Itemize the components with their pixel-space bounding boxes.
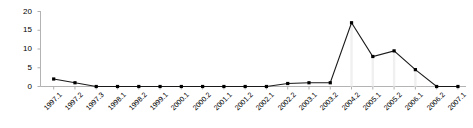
data-point-marker	[435, 85, 438, 88]
y-tick-label: 10	[12, 45, 32, 53]
data-point-marker	[201, 85, 204, 88]
line-chart: 05101520 1997.11997.21997.31998.11998.21…	[0, 0, 473, 128]
data-point-marker	[456, 85, 459, 88]
data-point-marker	[371, 55, 374, 58]
y-tick-label: 0	[12, 83, 32, 91]
y-tick-label: 15	[12, 26, 32, 34]
data-point-marker	[350, 21, 353, 24]
data-point-marker	[116, 85, 119, 88]
data-point-marker	[329, 81, 332, 84]
data-point-marker	[244, 85, 247, 88]
data-point-marker	[158, 85, 161, 88]
data-point-marker	[286, 82, 289, 85]
drop-lines	[352, 23, 416, 87]
axis-group	[41, 11, 467, 87]
data-point-marker	[95, 85, 98, 88]
data-point-marker	[414, 68, 417, 71]
data-point-marker	[137, 85, 140, 88]
data-series-line	[54, 23, 458, 87]
y-tick-label: 20	[12, 8, 32, 16]
data-point-marker	[392, 49, 395, 52]
data-point-marker	[180, 85, 183, 88]
data-point-marker	[307, 81, 310, 84]
data-point-marker	[265, 85, 268, 88]
data-point-marker	[222, 85, 225, 88]
y-tick-label: 5	[12, 64, 32, 72]
data-point-marker	[73, 81, 76, 84]
data-point-marker	[52, 77, 55, 80]
